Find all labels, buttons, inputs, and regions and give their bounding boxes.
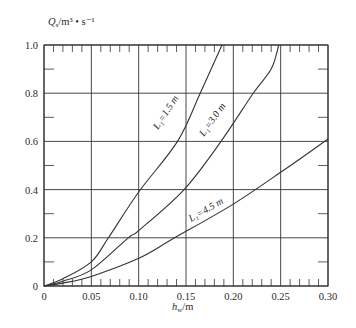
x-tick-label: 0.30 <box>319 291 337 302</box>
y-tick-label: 0.4 <box>25 185 39 196</box>
curve-series-2 <box>44 45 279 286</box>
x-tick-label: 0.25 <box>271 291 289 302</box>
y-tick-label: 0.8 <box>25 88 38 99</box>
y-tick-label: 0 <box>33 281 38 292</box>
x-tick-label: 0.10 <box>129 291 147 302</box>
curve-label-l1-1.5: L₁=1.5 m <box>150 93 180 132</box>
grid-lines <box>44 45 328 286</box>
y-tick-label: 1.0 <box>25 40 38 51</box>
y-tick-labels: 00.20.40.60.81.0 <box>25 40 39 292</box>
chart: 00.050.100.150.200.250.30 00.20.40.60.81… <box>0 0 356 328</box>
y-tick-label: 0.2 <box>25 233 38 244</box>
x-tick-label: 0.20 <box>224 291 242 302</box>
x-axis-title: hw/m <box>172 301 193 314</box>
x-tick-label: 0 <box>41 291 46 302</box>
y-axis-title: Qs/m³ • s⁻¹ <box>48 16 95 29</box>
y-tick-label: 0.6 <box>25 136 38 147</box>
curve-label-l1-3.0: L₁=3.0 m <box>196 101 227 139</box>
curve-series-1 <box>44 45 222 286</box>
x-tick-label: 0.05 <box>82 291 100 302</box>
